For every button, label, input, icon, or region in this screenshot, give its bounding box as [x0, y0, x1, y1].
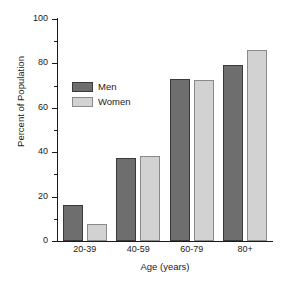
- y-tick-minor: [54, 41, 57, 42]
- bar-80plus-men: [223, 65, 243, 241]
- y-tick-major: [52, 241, 57, 242]
- x-axis-title: Age (years): [57, 261, 273, 272]
- legend-item-men: Men: [72, 80, 131, 93]
- bar-60-79-women: [194, 80, 214, 241]
- y-tick-label: 100: [24, 14, 48, 23]
- y-tick-major: [52, 152, 57, 153]
- bar-20-39-women: [87, 224, 107, 241]
- legend-label-men: Men: [98, 82, 116, 92]
- bar-40-59-men: [116, 158, 136, 241]
- y-axis-line: [57, 18, 58, 242]
- bar-20-39-men: [63, 205, 83, 241]
- x-tick-label: 80+: [211, 245, 279, 254]
- y-tick-major: [52, 63, 57, 64]
- y-tick-minor: [54, 219, 57, 220]
- y-tick-label: 0: [24, 236, 48, 245]
- legend-label-women: Women: [98, 97, 131, 107]
- y-tick-major: [52, 19, 57, 20]
- bar-40-59-women: [140, 156, 160, 241]
- bar-60-79-men: [170, 79, 190, 241]
- bar-80plus-women: [247, 50, 267, 241]
- y-tick-label: 60: [24, 103, 48, 112]
- y-tick-label: 40: [24, 147, 48, 156]
- bar-chart: Percent of Population 020406080100 20-39…: [0, 0, 284, 287]
- y-tick-label: 80: [24, 58, 48, 67]
- y-tick-minor: [54, 130, 57, 131]
- legend-item-women: Women: [72, 95, 131, 108]
- legend-swatch-men: [72, 82, 93, 92]
- x-axis-line: [57, 241, 273, 242]
- chart-legend: Men Women: [72, 80, 131, 110]
- legend-swatch-women: [72, 97, 93, 107]
- y-tick-minor: [54, 174, 57, 175]
- y-tick-minor: [54, 86, 57, 87]
- y-tick-major: [52, 197, 57, 198]
- y-tick-major: [52, 108, 57, 109]
- y-tick-label: 20: [24, 192, 48, 201]
